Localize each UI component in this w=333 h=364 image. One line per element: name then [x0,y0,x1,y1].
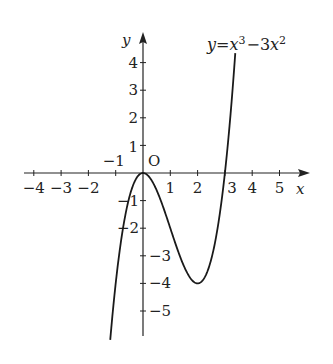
eq-exp2: 2 [279,34,286,47]
x-tick-label: 5 [275,179,285,197]
y-tick-label: 3 [128,81,138,99]
y-tick-label: 1 [128,138,138,156]
y-tick-label: 2 [128,109,138,127]
x-tick-label: −1 [103,152,125,170]
eq-coef: 3 [260,35,270,54]
y-tick-label: −3 [149,247,171,265]
x-tick-label: −2 [77,179,99,197]
tick-labels: −4−3−2−1123454321−1−2−3−4−5 [23,54,285,320]
origin-label: O [148,152,160,170]
eq-exp1: 3 [238,34,245,47]
x-tick-label: −3 [50,179,72,197]
eq-term2: x [270,35,279,54]
x-tick-label: −4 [23,179,45,197]
x-tick-label: 1 [166,179,176,197]
x-tick-label: 4 [247,179,257,197]
function-label: y=x3−3x2 [206,34,286,54]
y-tick-label: −5 [149,302,171,320]
eq-sign: = [216,35,229,54]
y-tick-label: 4 [128,54,138,72]
y-tick-label: −4 [149,274,171,292]
x-tick-label: 3 [227,179,237,197]
eq-term1: x [229,35,238,54]
eq-minus: − [246,35,259,54]
x-tick-label: 2 [193,179,203,197]
function-graph: −4−3−2−1123454321−1−2−3−4−5 x y O y=x3−3… [0,0,333,364]
y-tick-label: −2 [117,219,139,237]
x-axis-label: x [296,180,305,198]
y-axis-label: y [121,31,131,49]
